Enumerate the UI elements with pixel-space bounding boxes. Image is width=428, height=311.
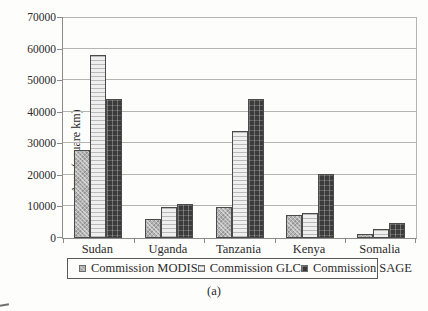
y-tick-70000 xyxy=(57,17,62,18)
y-tick-label-40000: 40000 xyxy=(12,106,56,118)
legend-label-commission-glc: Commission GLC xyxy=(210,261,301,276)
bar-kenya-commission-glc xyxy=(302,213,318,238)
figure-caption: (a) xyxy=(0,284,428,299)
y-tick-30000 xyxy=(57,143,62,144)
x-tick-5 xyxy=(415,239,416,243)
bar-sudan-commission-sage xyxy=(106,99,122,238)
bar-tanzania-commission-sage xyxy=(248,99,264,238)
bar-somalia-commission-glc xyxy=(373,229,389,238)
bar-sudan-commission-modis xyxy=(74,150,90,238)
category-label-kenya: Kenya xyxy=(274,242,345,257)
y-tick-label-70000: 70000 xyxy=(12,11,56,23)
gridline-70000 xyxy=(63,17,416,18)
y-tick-60000 xyxy=(57,49,62,50)
bar-somalia-commission-modis xyxy=(357,234,373,238)
scan-artifact-mark xyxy=(0,303,9,307)
legend-marker-commission-glc xyxy=(198,265,205,272)
legend-label-commission-modis: Commission MODIS xyxy=(91,261,198,276)
bar-chart-plot-area: Area (square km) xyxy=(62,17,417,239)
bar-uganda-commission-glc xyxy=(161,207,177,238)
legend-marker-commission-sage xyxy=(301,265,308,272)
bar-uganda-commission-modis xyxy=(145,219,161,238)
legend-label-commission-sage: Commission SAGE xyxy=(313,261,412,276)
legend: Commission MODISCommission GLCCommission… xyxy=(67,258,378,279)
gridline-60000 xyxy=(63,48,416,49)
bar-sudan-commission-glc xyxy=(90,55,106,238)
y-tick-label-30000: 30000 xyxy=(12,137,56,149)
figure-panel-a: Area (square km) 01000020000300004000050… xyxy=(0,0,428,311)
y-tick-20000 xyxy=(57,175,62,176)
category-label-somalia: Somalia xyxy=(344,242,415,257)
y-tick-label-60000: 60000 xyxy=(12,43,56,55)
bar-uganda-commission-sage xyxy=(177,204,193,238)
bar-kenya-commission-sage xyxy=(318,174,334,238)
y-tick-0 xyxy=(57,237,62,238)
y-tick-label-0: 0 xyxy=(12,232,56,244)
category-label-sudan: Sudan xyxy=(62,242,133,257)
legend-item-commission-modis: Commission MODIS xyxy=(79,261,198,276)
y-tick-label-20000: 20000 xyxy=(12,169,56,181)
y-tick-label-10000: 10000 xyxy=(12,200,56,212)
bar-tanzania-commission-glc xyxy=(232,131,248,238)
gridline-50000 xyxy=(63,79,416,80)
y-tick-50000 xyxy=(57,80,62,81)
bar-somalia-commission-sage xyxy=(389,223,405,238)
legend-item-commission-glc: Commission GLC xyxy=(198,261,301,276)
category-label-tanzania: Tanzania xyxy=(203,242,274,257)
y-tick-label-50000: 50000 xyxy=(12,74,56,86)
y-tick-40000 xyxy=(57,112,62,113)
bar-tanzania-commission-modis xyxy=(216,207,232,238)
y-tick-10000 xyxy=(57,206,62,207)
bar-kenya-commission-modis xyxy=(286,215,302,238)
category-label-uganda: Uganda xyxy=(133,242,204,257)
legend-item-commission-sage: Commission SAGE xyxy=(301,261,412,276)
legend-marker-commission-modis xyxy=(79,265,86,272)
